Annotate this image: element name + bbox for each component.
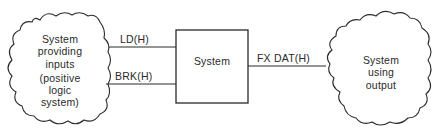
right-cloud-text: System using output [363, 54, 399, 91]
right-cloud-line: output [363, 79, 399, 91]
fx-dat-signal-label: FX DAT(H) [257, 52, 310, 64]
left-cloud-line: inputs [38, 58, 82, 70]
left-cloud-line: providing [38, 45, 82, 57]
left-cloud-line: logic [38, 84, 82, 96]
system-box-label: System [194, 55, 230, 67]
left-cloud-line: (positive [38, 72, 82, 84]
brk-signal-label: BRK(H) [115, 70, 152, 82]
right-cloud-line: using [363, 66, 399, 78]
ld-signal-label: LD(H) [120, 33, 149, 45]
block-diagram: System providing inputs (positive logic … [0, 0, 435, 140]
left-cloud-line: system) [38, 96, 82, 108]
right-cloud-line: System [363, 54, 399, 66]
left-cloud-text: System providing inputs (positive logic … [38, 33, 82, 109]
left-cloud-line: System [38, 33, 82, 45]
